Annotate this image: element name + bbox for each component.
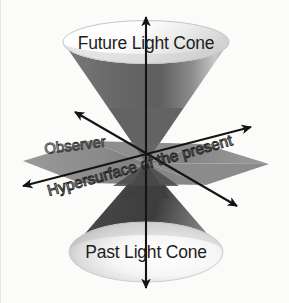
light-cone-diagram: Future Light Cone Past Light Cone Observ… xyxy=(0,0,289,303)
diagram-canvas: Future Light Cone Past Light Cone Observ… xyxy=(1,0,289,303)
future-light-cone-label: Future Light Cone xyxy=(78,33,215,53)
past-light-cone-label: Past Light Cone xyxy=(85,242,207,262)
